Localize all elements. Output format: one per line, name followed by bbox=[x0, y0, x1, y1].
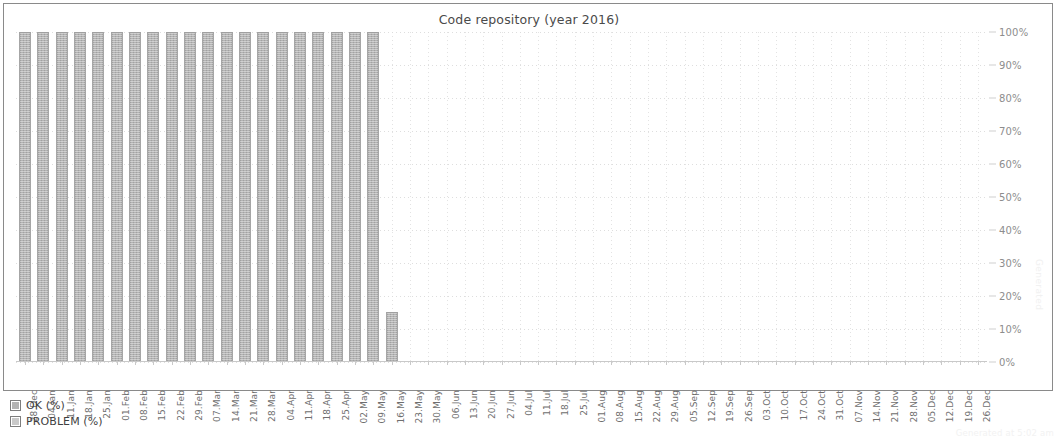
x-axis-tick-mark bbox=[117, 362, 118, 365]
y-axis-tick-label: 50% bbox=[999, 192, 1022, 203]
x-axis-tick-mark bbox=[648, 362, 649, 365]
bar-04-Apr-ok bbox=[276, 32, 288, 362]
x-axis-tick-label: 13.Jun bbox=[469, 390, 479, 419]
bar-28-Mar-ok bbox=[257, 32, 269, 362]
bar-14-Mar-ok bbox=[221, 32, 233, 362]
x-axis-tick-mark bbox=[190, 362, 191, 365]
x-axis-tick-label: 24.Oct bbox=[817, 390, 827, 420]
legend-swatch-icon bbox=[10, 416, 21, 427]
x-axis-tick-label: 11.Jul bbox=[542, 390, 552, 416]
x-axis-tick-label: 04.Jul bbox=[524, 390, 534, 416]
x-axis-tick-mark bbox=[502, 362, 503, 365]
bar-09-May-ok bbox=[367, 32, 379, 362]
x-axis-tick-mark bbox=[923, 362, 924, 365]
x-axis-tick-mark bbox=[721, 362, 722, 365]
chart-bars bbox=[16, 32, 987, 362]
y-axis-tick-mark bbox=[989, 65, 996, 66]
x-axis-tick-mark bbox=[282, 362, 283, 365]
chart-title: Code repository (year 2016) bbox=[4, 12, 1054, 27]
x-axis-tick-mark bbox=[630, 362, 631, 365]
x-axis-tick-label: 26.Sep bbox=[744, 390, 754, 422]
x-axis-tick-mark bbox=[556, 362, 557, 365]
bar-04-Jan-ok bbox=[37, 32, 49, 362]
x-axis-tick-label: 17.Oct bbox=[799, 390, 809, 420]
x-axis-tick-label: 29.Aug bbox=[670, 390, 680, 423]
x-axis-tick-label: 28.Nov bbox=[909, 390, 919, 422]
x-axis-tick-mark bbox=[886, 362, 887, 365]
bar-02-May-ok bbox=[349, 32, 361, 362]
x-axis-tick-mark bbox=[758, 362, 759, 365]
x-axis-tick-label: 25.Jul bbox=[579, 390, 589, 416]
x-axis-tick-mark bbox=[25, 362, 26, 365]
bar-28-Dec-ok bbox=[19, 32, 31, 362]
x-axis-tick-label: 22.Aug bbox=[652, 390, 662, 423]
bar-21-Mar-ok bbox=[239, 32, 251, 362]
x-axis-tick-label: 27.Jun bbox=[506, 390, 516, 419]
availability-report-page: Code repository (year 2016) 100%90%80%70… bbox=[0, 0, 1060, 441]
x-axis-tick-mark bbox=[905, 362, 906, 365]
vertical-watermark: Generated bbox=[1034, 259, 1044, 310]
x-axis-tick-mark bbox=[868, 362, 869, 365]
x-axis-tick-mark bbox=[575, 362, 576, 365]
x-axis-tick-label: 14.Nov bbox=[872, 390, 882, 422]
x-axis-tick-mark bbox=[520, 362, 521, 365]
x-axis-tick-mark bbox=[392, 362, 393, 365]
bar-16-May-ok bbox=[386, 312, 398, 362]
y-axis-tick-mark bbox=[989, 263, 996, 264]
bar-29-Feb-ok bbox=[184, 32, 196, 362]
x-axis-tick-mark bbox=[172, 362, 173, 365]
x-axis: 28.Dec04.Jan11.Jan18.Jan25.Jan01.Feb08.F… bbox=[16, 364, 987, 392]
y-axis-tick-label: 20% bbox=[999, 291, 1022, 302]
y-axis-tick-mark bbox=[989, 230, 996, 231]
x-axis-tick-mark bbox=[795, 362, 796, 365]
x-axis-tick-label: 26.Dec bbox=[982, 390, 992, 422]
y-axis-tick-label: 80% bbox=[999, 93, 1022, 104]
legend-item-problem[interactable]: PROBLEM (%) bbox=[10, 414, 410, 429]
y-axis-tick-mark bbox=[989, 296, 996, 297]
x-axis-tick-mark bbox=[685, 362, 686, 365]
x-axis-tick-mark bbox=[318, 362, 319, 365]
x-axis-tick-label: 07.Nov bbox=[854, 390, 864, 422]
x-axis-tick-label: 01.Aug bbox=[597, 390, 607, 423]
legend-item-ok[interactable]: OK (%) bbox=[10, 398, 410, 413]
x-axis-tick-mark bbox=[850, 362, 851, 365]
x-axis-tick-mark bbox=[410, 362, 411, 365]
bar-11-Jan-ok bbox=[56, 32, 68, 362]
x-axis-tick-label: 30.May bbox=[432, 390, 442, 424]
y-axis-tick-mark bbox=[989, 98, 996, 99]
legend-swatch-fill bbox=[11, 401, 20, 410]
x-axis-tick-mark bbox=[941, 362, 942, 365]
x-axis-tick-mark bbox=[245, 362, 246, 365]
x-axis-tick-mark bbox=[337, 362, 338, 365]
chart-plot-area bbox=[16, 32, 987, 362]
x-axis-tick-label: 31.Oct bbox=[835, 390, 845, 420]
x-axis-tick-label: 12.Dec bbox=[945, 390, 955, 422]
x-axis-tick-mark bbox=[428, 362, 429, 365]
x-axis-tick-label: 20.Jun bbox=[487, 390, 497, 419]
x-axis-tick-mark bbox=[465, 362, 466, 365]
bar-08-Feb-ok bbox=[129, 32, 141, 362]
y-axis-tick-mark bbox=[989, 164, 996, 165]
bar-15-Feb-ok bbox=[147, 32, 159, 362]
x-axis-tick-label: 05.Dec bbox=[927, 390, 937, 422]
bar-25-Jan-ok bbox=[92, 32, 104, 362]
x-axis-tick-label: 15.Aug bbox=[634, 390, 644, 423]
x-axis-tick-mark bbox=[373, 362, 374, 365]
y-axis-tick-label: 0% bbox=[999, 357, 1015, 368]
y-axis-tick-mark bbox=[989, 197, 996, 198]
y-axis-tick-label: 40% bbox=[999, 225, 1022, 236]
x-axis-tick-label: 12.Sep bbox=[707, 390, 717, 422]
y-axis-tick-label: 60% bbox=[999, 159, 1022, 170]
x-axis-tick-label: 05.Sep bbox=[689, 390, 699, 422]
x-axis-tick-label: 19.Dec bbox=[964, 390, 974, 422]
x-axis-tick-mark bbox=[703, 362, 704, 365]
chart-legend: OK (%)PROBLEM (%) bbox=[10, 398, 410, 430]
x-axis-tick-mark bbox=[813, 362, 814, 365]
y-axis-tick-label: 10% bbox=[999, 324, 1022, 335]
bar-11-Apr-ok bbox=[294, 32, 306, 362]
x-axis-tick-mark bbox=[538, 362, 539, 365]
x-axis-tick-label: 18.Jul bbox=[560, 390, 570, 416]
x-axis-tick-mark bbox=[300, 362, 301, 365]
y-axis-tick-label: 100% bbox=[999, 27, 1028, 38]
x-axis-tick-mark bbox=[80, 362, 81, 365]
